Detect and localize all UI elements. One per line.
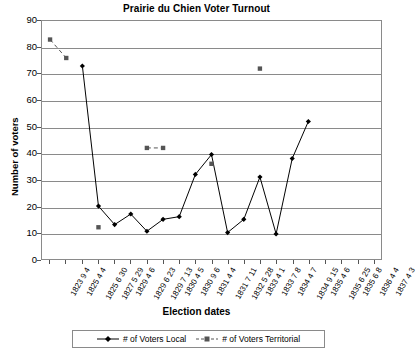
chart-title: Prairie du Chien Voter Turnout bbox=[0, 3, 393, 14]
x-tick-mark bbox=[98, 260, 99, 264]
data-point-marker bbox=[161, 146, 165, 150]
x-tick-mark bbox=[114, 260, 115, 264]
data-point-marker bbox=[145, 146, 149, 150]
y-tick-label: 70 bbox=[3, 68, 37, 77]
x-tick-mark bbox=[260, 260, 261, 264]
x-tick-mark bbox=[82, 260, 83, 264]
data-point-marker bbox=[258, 66, 262, 70]
data-point-marker bbox=[48, 37, 52, 41]
y-tick-label: 60 bbox=[3, 95, 37, 104]
x-tick-mark bbox=[374, 260, 375, 264]
y-axis-ticks: 9080706050403020100 bbox=[0, 20, 37, 260]
x-tick-mark bbox=[325, 260, 326, 264]
x-tick-mark bbox=[244, 260, 245, 264]
y-tick-label: 90 bbox=[3, 15, 37, 24]
y-tick-label: 40 bbox=[3, 148, 37, 157]
y-tick-label: 10 bbox=[3, 228, 37, 237]
x-axis-title: Election dates bbox=[0, 306, 393, 317]
plot-area bbox=[41, 20, 382, 260]
x-tick-mark bbox=[65, 260, 66, 264]
data-point-marker bbox=[290, 156, 295, 161]
series-line bbox=[82, 66, 308, 234]
data-point-marker bbox=[96, 225, 100, 229]
data-point-marker bbox=[257, 174, 262, 179]
diamond-marker-icon bbox=[97, 334, 119, 344]
y-tick-label: 30 bbox=[3, 175, 37, 184]
data-point-marker bbox=[80, 63, 85, 68]
data-point-marker bbox=[209, 162, 213, 166]
x-tick-mark bbox=[49, 260, 50, 264]
x-tick-mark bbox=[212, 260, 213, 264]
series-line bbox=[50, 40, 66, 58]
x-tick-mark bbox=[195, 260, 196, 264]
x-tick-mark bbox=[358, 260, 359, 264]
chart-legend: # of Voters Local # of Voters Territoria… bbox=[72, 330, 325, 348]
x-tick-mark bbox=[163, 260, 164, 264]
x-tick-mark bbox=[228, 260, 229, 264]
y-tick-label: 0 bbox=[3, 255, 37, 264]
data-point-marker bbox=[177, 214, 182, 219]
data-point-marker bbox=[306, 119, 311, 124]
square-marker-icon bbox=[196, 334, 218, 344]
x-tick-mark bbox=[276, 260, 277, 264]
y-tick-label: 80 bbox=[3, 42, 37, 51]
legend-item-territorial[interactable]: # of Voters Territorial bbox=[196, 334, 300, 344]
x-tick-mark bbox=[309, 260, 310, 264]
x-tick-mark bbox=[147, 260, 148, 264]
data-point-marker bbox=[64, 56, 68, 60]
data-point-marker bbox=[273, 231, 278, 236]
y-tick-label: 50 bbox=[3, 122, 37, 131]
x-tick-mark bbox=[130, 260, 131, 264]
legend-label-territorial: # of Voters Territorial bbox=[222, 334, 300, 344]
series-layer bbox=[42, 21, 381, 259]
x-tick-mark bbox=[341, 260, 342, 264]
legend-item-local[interactable]: # of Voters Local bbox=[97, 334, 186, 344]
y-tick-mark bbox=[37, 260, 41, 261]
x-tick-mark bbox=[179, 260, 180, 264]
legend-label-local: # of Voters Local bbox=[123, 334, 186, 344]
x-tick-mark bbox=[293, 260, 294, 264]
y-tick-label: 20 bbox=[3, 202, 37, 211]
